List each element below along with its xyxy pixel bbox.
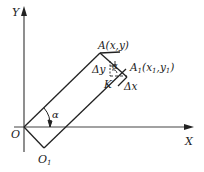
K-label: K (103, 78, 113, 90)
alpha-angle-mark (44, 108, 52, 127)
alpha-small-label: α (112, 61, 118, 71)
point-O1-label: O1 (38, 153, 52, 167)
alpha-arrow-icon (48, 120, 52, 127)
origin-label: O (11, 128, 20, 141)
delta-x-label: Δx (123, 80, 138, 92)
svg-text:O1: O1 (38, 153, 52, 167)
delta-y-label: Δy (91, 63, 107, 75)
point-A1-label: A1(x1,y1) (129, 61, 174, 75)
point-A-label: A(x,y) (97, 39, 129, 51)
y-axis-label: Y (12, 6, 21, 19)
alpha-angle-label: α (52, 109, 59, 120)
edge-A-corner (100, 52, 120, 53)
svg-text:A1(x1,y1): A1(x1,y1) (129, 61, 174, 75)
x-axis (14, 124, 194, 130)
x-axis-arrow-icon (184, 124, 194, 130)
y-axis-arrow-icon (21, 6, 27, 16)
coordinate-diagram: Y X O A(x,y) A1(x1,y1) Δy α K Δx α O1 (0, 0, 204, 172)
edge-O-A (24, 53, 100, 127)
x-axis-label: X (184, 135, 194, 148)
edge-O-O1 (24, 127, 44, 148)
